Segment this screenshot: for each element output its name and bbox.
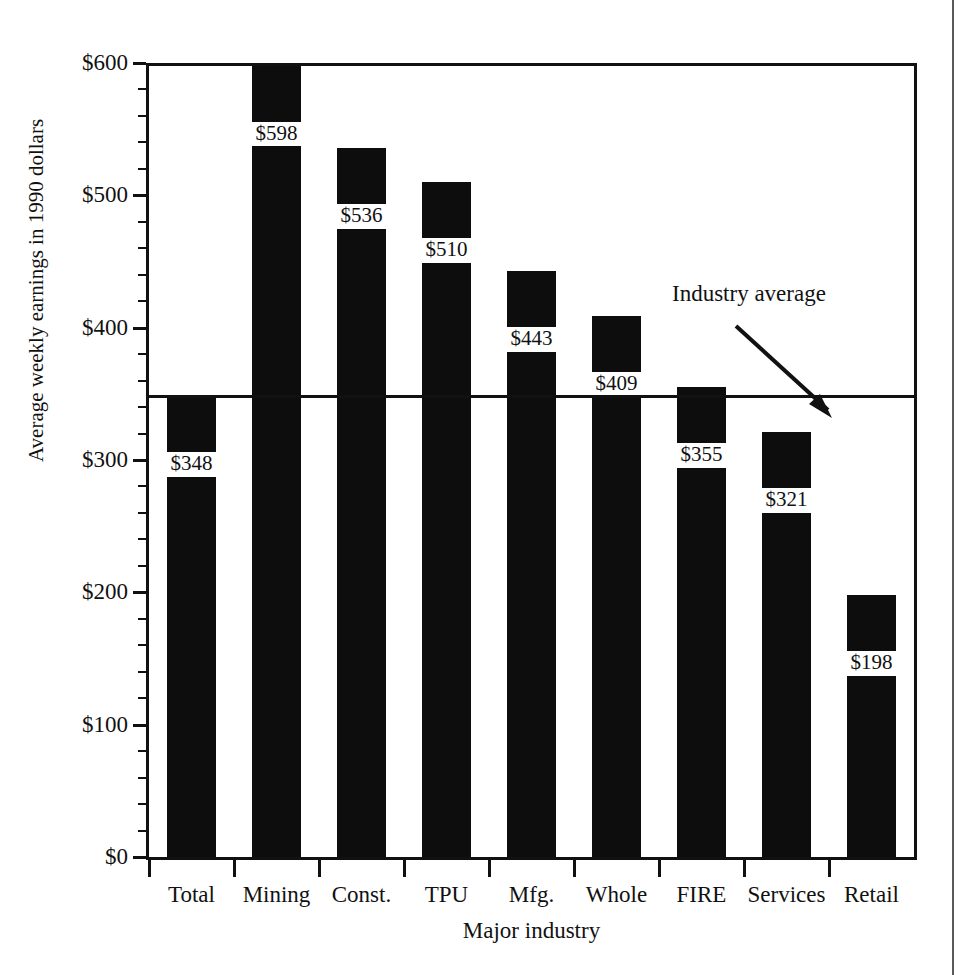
- x-axis-tick: [318, 860, 321, 877]
- y-axis-minor-tick: [138, 777, 146, 779]
- x-axis-tick: [828, 860, 831, 877]
- y-axis-minor-tick: [138, 247, 146, 249]
- bar: $321: [762, 432, 811, 857]
- bar-value-label: $510: [422, 238, 472, 263]
- y-axis-tick-label: $400: [82, 315, 128, 341]
- x-axis-tick-label: Whole: [586, 882, 647, 908]
- y-axis-minor-tick: [138, 221, 146, 223]
- y-axis-major-tick: [133, 856, 146, 859]
- bar-value-label: $198: [847, 651, 897, 676]
- x-axis-tick: [658, 860, 661, 877]
- y-axis-minor-tick: [138, 565, 146, 567]
- x-axis-tick: [403, 860, 406, 877]
- y-axis-major-tick: [133, 459, 146, 462]
- y-axis-major-tick: [133, 327, 146, 330]
- y-axis-minor-tick: [138, 750, 146, 752]
- y-axis-minor-tick: [138, 88, 146, 90]
- x-axis-tick-label: Const.: [332, 882, 391, 908]
- industry-average-annotation-label: Industry average: [672, 281, 826, 307]
- plot-area: $0$100$200$300$400$500$600 $348$598$536$…: [146, 63, 917, 860]
- x-axis-tick: [488, 860, 491, 877]
- y-axis-minor-tick: [138, 300, 146, 302]
- y-axis-minor-tick: [138, 538, 146, 540]
- y-axis-minor-tick: [138, 380, 146, 382]
- y-axis-major-tick: [133, 724, 146, 727]
- y-axis-tick-label: $300: [82, 447, 128, 473]
- bar-value-label: $321: [762, 488, 812, 513]
- x-axis-title: Major industry: [463, 918, 600, 944]
- y-axis-minor-tick: [138, 168, 146, 170]
- y-axis-tick-label: $600: [82, 50, 128, 76]
- y-axis-minor-tick: [138, 644, 146, 646]
- y-axis-minor-tick: [138, 830, 146, 832]
- x-axis-tick-label: TPU: [425, 882, 468, 908]
- x-axis-tick: [148, 860, 151, 877]
- y-axis-minor-tick: [138, 803, 146, 805]
- bar: $598: [252, 66, 301, 857]
- page-border-rule: [952, 0, 954, 975]
- x-axis-tick-label: Services: [748, 882, 826, 908]
- chart-page: Average weekly earnings in 1990 dollars …: [0, 0, 961, 975]
- x-axis-tick: [233, 860, 236, 877]
- bar: $355: [677, 387, 726, 857]
- bar-value-label: $598: [252, 122, 302, 147]
- bar-value-label: $355: [677, 443, 727, 468]
- bar: $198: [847, 595, 896, 857]
- x-axis-tick-label: Total: [168, 882, 215, 908]
- x-axis-tick-label: FIRE: [677, 882, 727, 908]
- y-axis-major-tick: [133, 194, 146, 197]
- y-axis-minor-tick: [138, 671, 146, 673]
- y-axis-major-tick: [133, 591, 146, 594]
- bar-value-label: $443: [507, 327, 557, 352]
- y-axis-minor-tick: [138, 274, 146, 276]
- bar-value-label: $348: [167, 452, 217, 477]
- industry-average-line: [146, 395, 917, 398]
- y-axis-tick-label: $500: [82, 182, 128, 208]
- x-axis-tick: [573, 860, 576, 877]
- y-axis-minor-tick: [138, 618, 146, 620]
- bar: $536: [337, 148, 386, 857]
- y-axis-minor-tick: [138, 353, 146, 355]
- y-axis-minor-tick: [138, 115, 146, 117]
- bar-value-label: $409: [592, 372, 642, 397]
- y-axis-minor-tick: [138, 141, 146, 143]
- y-axis-tick-label: $0: [105, 844, 128, 870]
- y-axis-minor-tick: [138, 406, 146, 408]
- x-axis-tick: [743, 860, 746, 877]
- bar-value-label: $536: [337, 204, 387, 229]
- y-axis-major-tick: [133, 62, 146, 65]
- x-axis-line: [146, 857, 917, 860]
- y-axis-minor-tick: [138, 485, 146, 487]
- y-axis-minor-tick: [138, 433, 146, 435]
- y-axis-tick-label: $100: [82, 712, 128, 738]
- x-axis-tick-label: Mining: [243, 882, 311, 908]
- x-axis-tick-label: Retail: [844, 882, 899, 908]
- y-axis-line: [146, 63, 149, 860]
- bar: $348: [167, 396, 216, 857]
- y-axis-minor-tick: [138, 512, 146, 514]
- plot-frame-right: [914, 63, 917, 860]
- x-axis-tick-label: Mfg.: [509, 882, 554, 908]
- bar: $443: [507, 271, 556, 857]
- y-axis-minor-tick: [138, 697, 146, 699]
- y-axis-title: Average weekly earnings in 1990 dollars: [24, 119, 49, 462]
- bar: $510: [422, 182, 471, 857]
- industry-average-arrow-icon: [728, 318, 858, 438]
- y-axis-tick-label: $200: [82, 579, 128, 605]
